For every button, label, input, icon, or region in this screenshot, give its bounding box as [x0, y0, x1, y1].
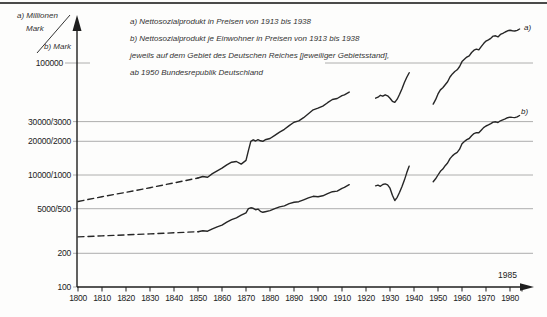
x-axis-tick-label: 1910 — [333, 293, 351, 303]
x-axis-tick-label: 1860 — [213, 293, 231, 303]
y-axis-unit-b-label: b) Mark — [44, 42, 71, 51]
x-axis-tick-label: 1890 — [285, 293, 303, 303]
series-b-end-label: b) — [521, 107, 528, 116]
x-axis-tick-label: 1970 — [477, 293, 495, 303]
x-axis-tick-label: 1840 — [165, 293, 183, 303]
legend-line-brd: ab 1950 Bundesrepublik Deutschland — [130, 64, 389, 81]
series-a-line — [78, 178, 198, 202]
x-axis-tick-label: 1920 — [357, 293, 375, 303]
series-b-line — [198, 185, 349, 232]
y-axis-tick-label: 20000/2000 — [28, 136, 71, 146]
y-axis-unit-a-label-line1: a) Millionen — [17, 11, 58, 20]
x-axis-tick-label: 1940 — [405, 293, 423, 303]
series-a-line — [198, 92, 349, 178]
legend: a) Nettosozialprodukt in Preisen von 191… — [130, 13, 389, 81]
y-axis-tick-label: 5000/500 — [37, 204, 71, 214]
legend-line-a: a) Nettosozialprodukt in Preisen von 191… — [130, 13, 389, 30]
x-axis-tick-label: 1980 — [501, 293, 519, 303]
y-axis-unit-a-label-line2: Mark — [26, 24, 44, 33]
x-axis-tick-label: 1810 — [93, 293, 111, 303]
series-a-end-label: a) — [524, 23, 531, 32]
y-axis-tick-label: 100000 — [36, 58, 63, 68]
x-axis-tick-label: 1820 — [117, 293, 135, 303]
series-a-line — [433, 29, 519, 104]
x-axis-tick-label: 1960 — [453, 293, 471, 303]
x-axis-annotation-1985: 1985 — [498, 270, 517, 280]
x-axis-tick-label: 1870 — [237, 293, 255, 303]
y-axis-tick-label: 30000/3000 — [28, 117, 71, 127]
x-axis-tick-label: 1880 — [261, 293, 279, 303]
x-axis-tick-label: 1800 — [69, 293, 87, 303]
y-axis-tick-label: 100 — [57, 282, 71, 292]
series-b-line — [433, 116, 519, 182]
x-axis-tick-label: 1930 — [381, 293, 399, 303]
series-b-line — [78, 232, 198, 237]
x-axis-tick-label: 1950 — [429, 293, 447, 303]
x-axis-tick-label: 1850 — [189, 293, 207, 303]
legend-line-territory: jeweils auf dem Gebiet des Deutschen Rei… — [130, 47, 389, 64]
x-axis-tick-label: 1900 — [309, 293, 327, 303]
y-axis-tick-label: 200 — [57, 248, 71, 258]
log-line-chart-figure: a) Millionen Mark b) Mark a) Nettosozial… — [0, 0, 547, 317]
y-axis-tick-label: 10000/1000 — [28, 170, 71, 180]
y-axis-arrow-icon — [73, 15, 82, 31]
legend-line-b: b) Nettosozialprodukt je Einwohner in Pr… — [130, 30, 389, 47]
x-axis-tick-label: 1830 — [141, 293, 159, 303]
series-b-line — [376, 166, 410, 200]
